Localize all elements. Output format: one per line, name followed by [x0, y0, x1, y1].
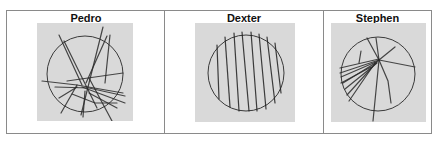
drawing-dexter — [195, 23, 295, 122]
sketch-dexter-icon — [195, 23, 295, 122]
sketch-pedro-icon — [37, 23, 133, 121]
drawings-table: Pedro Dexter Stephen — [6, 10, 432, 134]
sketch-stephen-icon — [331, 23, 426, 122]
cell-pedro: Pedro — [7, 11, 165, 133]
drawing-pedro — [37, 23, 133, 121]
cell-dexter: Dexter — [164, 11, 323, 133]
drawing-stephen — [331, 23, 426, 122]
cell-stephen: Stephen — [323, 11, 431, 133]
